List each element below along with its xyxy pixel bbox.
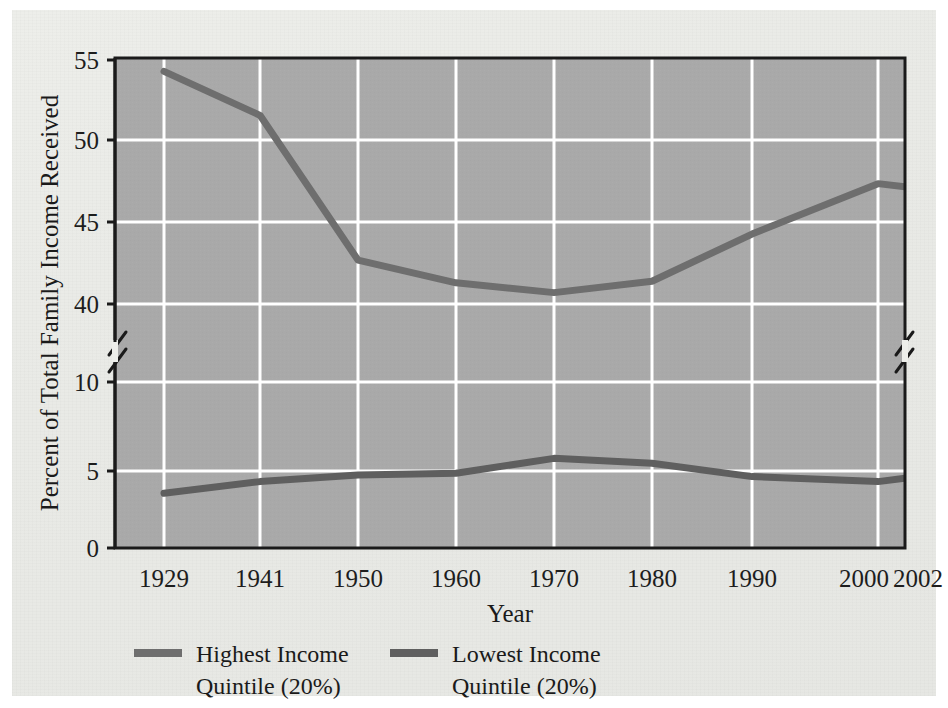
- tick-label-x-1990: 1990: [727, 565, 777, 592]
- tick-label-x-1929: 1929: [139, 565, 189, 592]
- page-root: 55 50 45 40 10 5 0 Percent of Total Fami…: [0, 0, 948, 708]
- paper-background: 55 50 45 40 10 5 0 Percent of Total Fami…: [12, 10, 936, 696]
- legend-label-highest-income-line2: Quintile (20%): [196, 673, 341, 699]
- y-axis-break-gap-right: [902, 340, 908, 362]
- legend-swatch-lowest-income: [390, 649, 438, 657]
- income-quintile-line-chart: 55 50 45 40 10 5 0 Percent of Total Fami…: [12, 10, 948, 708]
- tick-label-y-50: 50: [74, 127, 99, 154]
- legend-item-highest-income[interactable]: Highest Income Quintile (20%): [134, 641, 349, 699]
- tick-label-y-45: 45: [74, 209, 99, 236]
- x-axis-title: Year: [487, 600, 534, 627]
- legend: Highest Income Quintile (20%) Lowest Inc…: [134, 641, 601, 699]
- tick-label-y-40: 40: [74, 291, 99, 318]
- legend-swatch-highest-income: [134, 649, 182, 657]
- legend-label-lowest-income-line2: Quintile (20%): [452, 673, 597, 699]
- tick-label-y-5: 5: [87, 458, 100, 485]
- y-axis-title: Percent of Total Family Income Received: [36, 94, 63, 511]
- tick-label-x-1970: 1970: [529, 565, 579, 592]
- tick-label-x-2000: 2000: [839, 565, 889, 592]
- y-axis-break-gap-left: [112, 340, 118, 362]
- tick-label-x-1941: 1941: [235, 565, 285, 592]
- tick-label-y-10: 10: [74, 369, 99, 396]
- tick-label-y-0: 0: [87, 535, 100, 562]
- tick-label-x-1950: 1950: [333, 565, 383, 592]
- tick-label-x-1960: 1960: [431, 565, 481, 592]
- figure-container: 55 50 45 40 10 5 0 Percent of Total Fami…: [12, 10, 936, 696]
- legend-label-highest-income-line1: Highest Income: [196, 641, 349, 667]
- tick-label-y-55: 55: [74, 47, 99, 74]
- tick-label-x-1980: 1980: [627, 565, 677, 592]
- legend-item-lowest-income[interactable]: Lowest Income Quintile (20%): [390, 641, 601, 699]
- legend-label-lowest-income-line1: Lowest Income: [452, 641, 601, 667]
- tick-label-x-2002: 2002: [893, 565, 943, 592]
